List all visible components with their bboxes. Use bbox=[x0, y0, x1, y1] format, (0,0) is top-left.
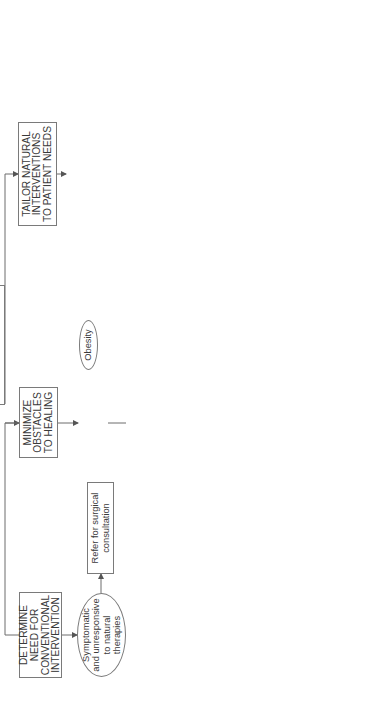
condition-obesity: Obesity bbox=[79, 320, 98, 370]
action-refer-surgical: Refer for surgical consultation bbox=[87, 482, 114, 574]
cropped-edge-box bbox=[0, 285, 5, 405]
stage-determine: DETERMINE NEED FOR CONVENTIONAL INTERVEN… bbox=[19, 592, 62, 678]
flowchart-canvas: DETERMINE NEED FOR CONVENTIONAL INTERVEN… bbox=[0, 0, 386, 709]
condition-symptomatic: Symptomatic and unresponsive to natural … bbox=[77, 593, 126, 677]
stage-minimize: MINIMIZE OBSTACLES TO HEALING bbox=[19, 387, 58, 458]
stage-tailor: TAILOR NATURAL INTERVENTIONS TO PATIENT … bbox=[18, 122, 57, 226]
